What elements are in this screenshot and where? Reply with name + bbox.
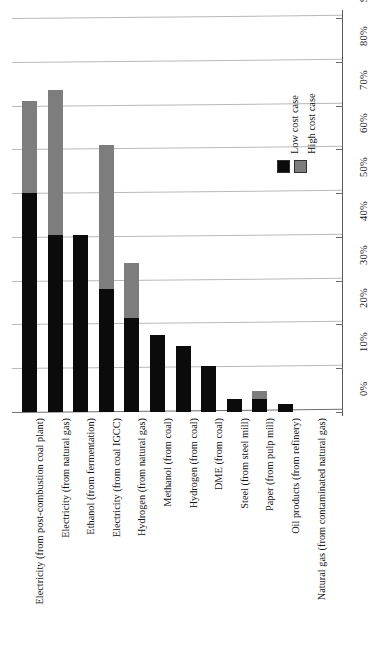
bar-segment-low-cost[interactable] [22,193,37,412]
bar-segment-low-cost[interactable] [227,399,242,412]
chart-legend: Low cost caseHigh cost case [276,96,320,188]
y-tick-mark-30 [336,281,343,282]
x-axis-category-label: Oil products (from refinery) [291,418,302,664]
x-axis-category-label: DME (from coal) [214,418,225,664]
x-axis-category-label: Ethanol (from fermentation) [86,418,97,664]
y-tick-mark-0 [336,412,343,413]
bar-segment-low-cost[interactable] [201,366,216,412]
y-tick-mark-60 [336,149,343,150]
bar-segment-low-cost[interactable] [73,235,88,412]
y-tick-mark-50 [336,193,343,194]
bar-segment-high-cost[interactable] [48,90,63,234]
legend-label: Low cost case [289,95,300,154]
x-axis-category-label: Electricity (from natural gas) [61,418,72,664]
legend-swatch [277,160,290,173]
y-tick-mark-40 [336,237,343,238]
x-axis-category-label: Electricity (from coal IGCC) [112,418,123,664]
bar-group[interactable] [278,404,293,412]
bar-group[interactable] [124,263,139,412]
bar-segment-high-cost[interactable] [124,263,139,318]
bar-segment-low-cost[interactable] [176,346,191,412]
y-tick-mark-70 [336,106,343,107]
bar-segment-high-cost[interactable] [99,145,114,289]
bar-group[interactable] [252,391,267,412]
bar-segment-low-cost[interactable] [99,289,114,412]
x-axis-category-label: Natural gas (from contaminated natural g… [317,418,328,664]
legend-label: High cost case [306,93,317,154]
bar-group[interactable] [176,346,191,412]
y-tick-mark-20 [336,324,343,325]
x-axis-category-label: Hydrogen (from coal) [189,418,200,664]
bar-segment-low-cost[interactable] [48,235,63,412]
plot-area [12,18,342,412]
bar-segment-low-cost[interactable] [252,399,267,412]
bar-segment-low-cost[interactable] [150,335,165,412]
x-axis-category-label: Steel (from steel mill) [240,418,251,664]
x-axis-category-label: Methanol (from coal) [163,418,174,664]
bar-group[interactable] [99,145,114,412]
bar-segment-low-cost[interactable] [278,404,293,412]
legend-swatch [294,160,307,173]
x-axis-category-label: Paper (from pulp mill) [265,418,276,664]
chart-root: 0%10%20%30%40%50%60%70%80%90% Electricit… [0,0,377,670]
y-tick-mark-90 [336,18,343,19]
bar-group[interactable] [150,335,165,412]
x-axis-category-labels: Electricity (from post-combustion coal p… [12,416,342,668]
bar-group[interactable] [73,235,88,412]
bar-segment-high-cost[interactable] [22,101,37,193]
bar-segment-low-cost[interactable] [124,318,139,412]
bar-group[interactable] [227,399,242,412]
bar-group[interactable] [48,90,63,412]
y-tick-mark-10 [336,368,343,369]
y-axis-spine [342,10,343,416]
bar-series-container [12,18,342,412]
y-tick-mark-80 [336,62,343,63]
bar-group[interactable] [201,366,216,412]
bar-segment-high-cost[interactable] [252,391,267,398]
bar-group[interactable] [22,101,37,412]
x-axis-category-label: Hydrogen (from natural gas) [137,418,148,664]
x-axis-category-label: Electricity (from post-combustion coal p… [35,418,46,664]
